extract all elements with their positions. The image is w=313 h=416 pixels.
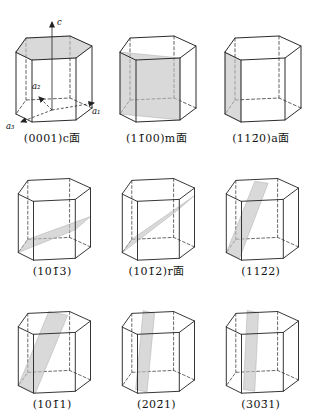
prism-visible-edges: [122, 179, 194, 261]
crystal-cell-1011: (101̄1): [0, 283, 104, 416]
shaded-plane: [244, 311, 259, 392]
plane-index-label: (202̄1): [137, 398, 176, 411]
shaded-plane: [136, 311, 155, 393]
plane-index-label: (303̄1): [241, 398, 280, 411]
plane-index-label: (112̄0)a面: [232, 132, 289, 145]
shaded-plane: [16, 36, 92, 60]
hexagonal-prism-diagram: [213, 302, 308, 397]
hexagonal-prism-diagram: [109, 169, 204, 264]
crystal-cell-1100: (11̄00)m面: [104, 0, 208, 150]
crystal-cell-0001: c a₁ a₂ a₃ (0001)c面: [0, 0, 104, 150]
hexagonal-planes-figure: c a₁ a₂ a₃ (0001)c面 (11̄00)m面 (112̄0)a面: [0, 0, 313, 416]
hexagonal-prism-diagram: [109, 302, 204, 397]
a3-axis: [21, 110, 52, 122]
shaded-plane: [120, 52, 180, 120]
a1-axis: [52, 103, 94, 110]
plane-index-label: (112̄2): [241, 265, 280, 278]
hexagonal-prism-diagram: [211, 13, 311, 131]
a3-axis-label: a₃: [6, 121, 15, 131]
crystal-cell-1122: (112̄2): [209, 150, 313, 283]
crystal-cell-1120: (112̄0)a面: [209, 0, 313, 150]
hexagonal-prism-diagram: c a₁ a₂ a₃: [2, 13, 102, 131]
hexagonal-prism-diagram: [213, 169, 308, 264]
prism-visible-edges: [227, 312, 299, 394]
shaded-plane: [18, 217, 90, 253]
plane-index-label: (0001)c面: [24, 132, 81, 145]
crystal-cell-3031: (303̄1): [209, 283, 313, 416]
hexagonal-prism-diagram: [5, 169, 100, 264]
a1-axis-label: a₁: [92, 106, 100, 116]
shaded-plane: [18, 312, 67, 394]
prism-hidden-edges: [122, 312, 194, 386]
prism-visible-edges: [122, 312, 194, 394]
crystal-cell-1012: (101̄2)r面: [104, 150, 208, 283]
shaded-plane: [225, 52, 241, 122]
crystal-axes: c a₁ a₂ a₃: [6, 17, 100, 131]
plane-index-label: (101̄2)r面: [128, 265, 184, 278]
c-axis-label: c: [57, 17, 62, 27]
prism-hidden-edges: [227, 312, 299, 386]
textbook-figure-page: { "figure": { "description": "Hexagonal …: [0, 0, 313, 416]
shaded-plane: [122, 196, 194, 253]
hexagonal-prism-diagram: [106, 13, 206, 131]
crystal-cell-2021: (202̄1): [104, 283, 208, 416]
shaded-plane: [227, 181, 269, 258]
hexagonal-prism-diagram: [5, 302, 100, 397]
plane-index-label: (101̄1): [33, 398, 72, 411]
plane-index-label: (11̄00)m面: [126, 132, 187, 145]
plane-index-label: (101̄3): [33, 265, 72, 278]
crystal-cell-1013: (101̄3): [0, 150, 104, 283]
a2-axis-label: a₂: [32, 81, 41, 91]
